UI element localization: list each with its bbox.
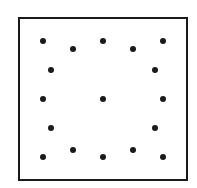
dot bbox=[160, 38, 166, 44]
dot bbox=[48, 125, 54, 131]
dot bbox=[40, 96, 46, 102]
dot bbox=[40, 38, 46, 44]
dot bbox=[152, 125, 158, 131]
dot bbox=[70, 46, 76, 52]
dot bbox=[160, 154, 166, 160]
dot bbox=[40, 154, 46, 160]
dot bbox=[152, 67, 158, 73]
dot bbox=[160, 96, 166, 102]
dot bbox=[70, 147, 76, 153]
dot bbox=[130, 147, 136, 153]
dot bbox=[100, 38, 106, 44]
dot bbox=[48, 67, 54, 73]
dot bbox=[100, 96, 106, 102]
dot bbox=[130, 46, 136, 52]
dot bbox=[100, 154, 106, 160]
